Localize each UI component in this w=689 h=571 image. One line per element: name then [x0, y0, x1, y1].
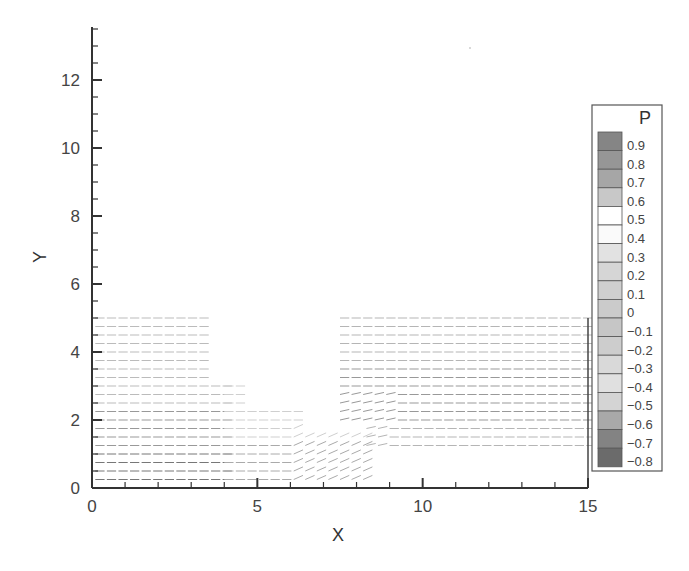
vector-arrow: [294, 450, 303, 454]
x-axis-title: X: [332, 525, 344, 545]
vector-arrow: [378, 426, 387, 428]
legend-band: [598, 337, 622, 356]
y-axis-title: Y: [30, 251, 50, 263]
vector-arrow: [352, 418, 361, 420]
vector-arrow: [317, 441, 326, 445]
vector-arrow: [363, 467, 372, 471]
vector-arrow: [328, 441, 337, 445]
legend-band: [598, 318, 622, 337]
vector-arrow: [378, 443, 387, 445]
legend-level-label: −0.4: [627, 380, 653, 395]
legend-level-label: −0.1: [627, 324, 653, 339]
vector-arrow: [352, 401, 361, 403]
vector-arrow: [352, 467, 361, 471]
y-tick-label: 6: [71, 275, 80, 294]
vector-arrow: [305, 433, 314, 437]
vector-arrow: [352, 450, 361, 454]
legend-band: [598, 244, 622, 263]
vector-arrow: [340, 475, 349, 479]
vector-arrow: [352, 458, 361, 462]
vector-arrow: [366, 426, 375, 428]
legend-band: [598, 374, 622, 393]
vector-arrow: [317, 433, 326, 437]
legend-level-label: 0: [627, 305, 634, 320]
vector-arrow: [317, 475, 326, 479]
vector-arrow: [305, 458, 314, 462]
legend-band: [598, 281, 622, 300]
vector-arrow: [340, 458, 349, 462]
vector-arrow: [340, 450, 349, 454]
vector-arrow: [317, 458, 326, 462]
legend-level-label: 0.8: [627, 157, 645, 172]
legend-level-label: −0.8: [627, 454, 653, 469]
legend-level-label: 0.2: [627, 268, 645, 283]
legend-band: [598, 430, 622, 449]
legend-level-label: −0.3: [627, 361, 653, 376]
legend-level-label: 0.4: [627, 231, 645, 246]
vector-arrow: [363, 401, 372, 403]
vector-arrow: [340, 401, 349, 403]
color-legend: P 0.90.80.70.60.50.40.30.20.10−0.1−0.2−0…: [592, 105, 662, 471]
vector-arrow: [305, 475, 314, 479]
velocity-vectors: [95, 318, 595, 480]
vector-arrow: [375, 392, 384, 394]
y-tick-label: 4: [71, 343, 80, 362]
legend-title: P: [639, 108, 651, 128]
vector-arrow: [328, 467, 337, 471]
vector-arrow: [375, 409, 384, 411]
vector-plot: 024681012051015 X Y P 0.90.80.70.60.50.4…: [0, 0, 689, 571]
legend-level-label: −0.5: [627, 398, 653, 413]
stray-speck: [469, 47, 471, 49]
legend-color-bands: [598, 132, 622, 467]
vector-arrow: [305, 441, 314, 445]
vector-arrow: [294, 433, 303, 437]
vector-arrow: [340, 409, 349, 411]
vector-arrow: [340, 441, 349, 445]
vector-arrow: [386, 409, 395, 411]
axes: [92, 27, 588, 488]
vector-arrow: [363, 458, 372, 462]
legend-level-label: −0.6: [627, 417, 653, 432]
vector-arrow: [363, 450, 372, 454]
legend-band: [598, 225, 622, 244]
vector-arrow: [317, 467, 326, 471]
vector-arrow: [294, 424, 303, 428]
vector-arrow: [340, 433, 349, 437]
legend-band: [598, 132, 622, 151]
legend-band: [598, 299, 622, 318]
legend-band: [598, 411, 622, 430]
x-tick-label: 0: [87, 497, 96, 516]
vector-arrow: [328, 433, 337, 437]
y-tick-label: 2: [71, 411, 80, 430]
vector-arrow: [328, 458, 337, 462]
vector-arrow: [294, 458, 303, 462]
vector-arrow: [378, 435, 387, 437]
vector-arrow: [305, 450, 314, 454]
vector-arrow: [386, 401, 395, 403]
x-tick-label: 5: [253, 497, 262, 516]
vector-arrow: [340, 392, 349, 394]
legend-band: [598, 355, 622, 374]
y-tick-label: 10: [61, 139, 80, 158]
vector-arrow: [328, 450, 337, 454]
vector-arrow: [386, 392, 395, 394]
vector-arrow: [352, 475, 361, 479]
legend-level-label: −0.2: [627, 343, 653, 358]
vector-arrow: [352, 441, 361, 445]
legend-band: [598, 262, 622, 281]
vector-arrow: [363, 475, 372, 479]
legend-level-label: 0.7: [627, 175, 645, 190]
legend-level-label: 0.6: [627, 194, 645, 209]
legend-level-label: 0.1: [627, 287, 645, 302]
tick-labels: 024681012051015: [61, 71, 597, 516]
vector-arrow: [363, 409, 372, 411]
legend-band: [598, 151, 622, 170]
vector-arrow: [352, 392, 361, 394]
x-tick-label: 10: [413, 497, 432, 516]
vector-arrow: [294, 467, 303, 471]
vector-arrow: [352, 433, 361, 437]
vector-arrow: [375, 401, 384, 403]
vector-arrow: [363, 418, 372, 420]
vector-arrow: [352, 409, 361, 411]
y-tick-label: 8: [71, 207, 80, 226]
